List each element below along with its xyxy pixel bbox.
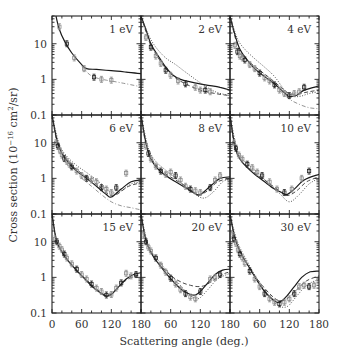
x-tick-label: 60 bbox=[164, 318, 177, 330]
panel-energy-label: 8 eV bbox=[198, 122, 222, 134]
panel-energy-label: 20 eV bbox=[192, 221, 223, 233]
y-tick-label: 0.1 bbox=[30, 208, 47, 220]
panel-energy-label: 30 eV bbox=[281, 221, 312, 233]
y-tick-label: 1 bbox=[40, 73, 47, 85]
experimental-points bbox=[144, 143, 221, 195]
y-tick-label: 0.1 bbox=[30, 307, 47, 319]
panel-30-ev: 30 eV bbox=[230, 214, 319, 313]
y-tick-label: 0.1 bbox=[30, 109, 47, 121]
experimental-points bbox=[233, 42, 305, 98]
y-axis-label: Cross section (10−16 cm2/sr) bbox=[7, 87, 20, 242]
experimental-points bbox=[144, 34, 211, 94]
y-tick-label: 1 bbox=[40, 172, 47, 184]
panel-energy-label: 10 eV bbox=[281, 122, 312, 134]
chart-canvas: 1 eV2 eV4 eV6 eV8 eV10 eV15 eV20 eV30 eV… bbox=[0, 0, 347, 356]
panel-energy-label: 4 eV bbox=[287, 23, 311, 35]
panel-energy-label: 6 eV bbox=[109, 122, 133, 134]
svg-text:Cross section (10−16 cm2/sr): Cross section (10−16 cm2/sr) bbox=[7, 87, 20, 242]
y-label-exponent: −16 bbox=[7, 130, 15, 145]
panel-energy-label: 1 eV bbox=[109, 23, 133, 35]
y-tick-labels: 1010.11010.11010.1 bbox=[30, 38, 47, 319]
panel-6-ev: 6 eV bbox=[52, 115, 141, 214]
y-tick-label: 10 bbox=[34, 38, 47, 50]
y-tick-label: 1 bbox=[40, 271, 47, 283]
experimental-points bbox=[142, 232, 222, 301]
y-label-unit: cm bbox=[7, 110, 20, 131]
y-label-tail: /sr) bbox=[7, 87, 20, 106]
experimental-points bbox=[231, 232, 316, 306]
curve-dashdot bbox=[260, 72, 319, 109]
experimental-points bbox=[58, 24, 113, 83]
experimental-points bbox=[54, 140, 127, 196]
x-tick-label: 180 bbox=[220, 318, 240, 330]
panel-4-ev: 4 eV bbox=[230, 16, 319, 115]
x-tick-label: 60 bbox=[253, 318, 266, 330]
y-label-main: Cross section (10 bbox=[7, 146, 20, 243]
panel-1-ev: 1 eV bbox=[52, 16, 141, 115]
y-tick-label: 10 bbox=[34, 137, 47, 149]
x-axis-label: Scattering angle (deg.) bbox=[120, 335, 249, 348]
panel-2-ev: 2 eV bbox=[141, 16, 230, 115]
x-tick-label: 180 bbox=[309, 318, 329, 330]
panel-energy-label: 2 eV bbox=[198, 23, 222, 35]
panel-15-ev: 15 eV bbox=[52, 214, 141, 313]
x-tick-label: 180 bbox=[131, 318, 151, 330]
y-tick-label: 10 bbox=[34, 236, 47, 248]
panel-10-ev: 10 eV bbox=[230, 115, 319, 214]
x-tick-label: 120 bbox=[101, 318, 121, 330]
x-tick-labels: 0601201806012018060120180 bbox=[49, 318, 329, 330]
panel-energy-label: 15 eV bbox=[103, 221, 134, 233]
panels-layer: 1 eV2 eV4 eV6 eV8 eV10 eV15 eV20 eV30 eV bbox=[52, 16, 319, 313]
panel-20-ev: 20 eV bbox=[141, 214, 230, 313]
x-tick-label: 120 bbox=[279, 318, 299, 330]
panel-8-ev: 8 eV bbox=[141, 115, 230, 214]
cross-section-figure: 1 eV2 eV4 eV6 eV8 eV10 eV15 eV20 eV30 eV… bbox=[0, 0, 347, 356]
x-tick-label: 0 bbox=[49, 318, 56, 330]
x-tick-label: 120 bbox=[190, 318, 210, 330]
x-tick-label: 60 bbox=[75, 318, 88, 330]
